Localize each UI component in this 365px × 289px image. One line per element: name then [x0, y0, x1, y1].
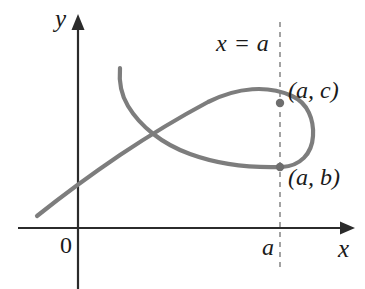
point-label-a-c: (a, c)	[288, 78, 339, 102]
y-axis	[72, 14, 85, 289]
vertical-line-label: x = a	[216, 31, 269, 55]
x-axis-label: x	[338, 236, 349, 261]
figure-container: y x 0 a x = a (a, c) (a, b)	[0, 0, 365, 289]
y-axis-arrowhead	[72, 14, 85, 30]
x-tick-label-a: a	[262, 235, 274, 259]
point-a-c-marker	[276, 99, 284, 107]
point-a-b-marker	[276, 163, 284, 171]
graph-canvas	[0, 0, 365, 289]
origin-label: 0	[60, 233, 72, 257]
x-axis-arrowhead	[340, 222, 355, 235]
y-axis-label: y	[55, 6, 66, 31]
point-label-a-b: (a, b)	[288, 165, 340, 189]
